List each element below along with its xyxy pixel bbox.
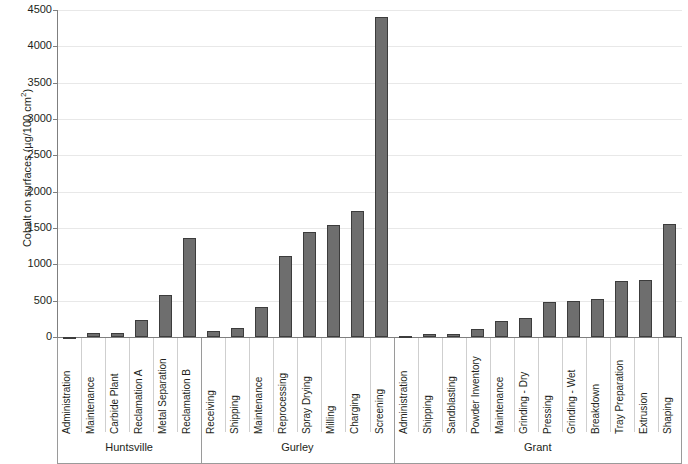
y-axis-tick-label: 0 (18, 331, 52, 342)
category-separator (634, 338, 635, 432)
y-axis-tick-mark (53, 10, 57, 11)
bar[interactable] (639, 280, 652, 337)
category-label: Maintenance (493, 334, 507, 434)
category-separator (273, 338, 274, 432)
bar[interactable] (351, 211, 364, 337)
category-separator (514, 338, 515, 432)
category-label: Screening (373, 334, 387, 434)
category-label: Extrusion (637, 334, 651, 434)
bar-chart: Cobalt on surfaces (µg/100 cm2) 05001000… (0, 0, 688, 464)
category-label: Carbide Plant (108, 334, 122, 434)
gridline (58, 46, 682, 47)
category-separator (345, 338, 346, 432)
category-label: Sandblasting (445, 334, 459, 434)
y-axis-tick-label: 500 (18, 295, 52, 306)
y-axis-tick-label: 2500 (18, 149, 52, 160)
category-label: Metal Separation (156, 334, 170, 434)
group-label: Gurley (201, 439, 393, 455)
y-axis-tick-label: 1000 (18, 258, 52, 269)
category-separator (370, 338, 371, 432)
category-separator (129, 338, 130, 432)
gridline (58, 264, 682, 265)
category-separator (562, 338, 563, 432)
bar[interactable] (303, 232, 316, 337)
bar[interactable] (663, 224, 676, 337)
bar[interactable] (159, 295, 172, 337)
category-separator (153, 338, 154, 432)
bar[interactable] (615, 281, 628, 337)
category-label: Charging (348, 334, 362, 434)
category-label: Powder Inventory (469, 334, 483, 434)
y-axis-tick-label: 2000 (18, 186, 52, 197)
category-label: Milling (324, 334, 338, 434)
gridline (58, 192, 682, 193)
category-separator (466, 338, 467, 432)
category-label: Administration (60, 334, 74, 434)
y-axis-tick-label: 3000 (18, 113, 52, 124)
y-axis-tick-mark (53, 192, 57, 193)
category-separator (105, 338, 106, 432)
gridline (58, 10, 682, 11)
gridline (58, 155, 682, 156)
bar[interactable] (255, 307, 268, 337)
category-label: Reprocessing (276, 334, 290, 434)
category-label: Pressing (541, 334, 555, 434)
bar[interactable] (543, 302, 556, 337)
category-label: Grinding - Dry (517, 334, 531, 434)
category-label: Shipping (228, 334, 242, 434)
category-label: Receiving (204, 334, 218, 434)
gridline (58, 119, 682, 120)
group-label: Huntsville (57, 439, 201, 455)
bar[interactable] (591, 299, 604, 337)
category-separator (442, 338, 443, 432)
category-label: Maintenance (252, 334, 266, 434)
gridline (58, 301, 682, 302)
y-axis-tick-mark (53, 155, 57, 156)
category-label: Reclamation B (180, 334, 194, 434)
category-label: Administration (397, 334, 411, 434)
bar[interactable] (327, 225, 340, 337)
bar[interactable] (567, 301, 580, 337)
y-axis-tick-mark (53, 228, 57, 229)
gridline (58, 83, 682, 84)
x-axis-categories: AdministrationMaintenanceCarbide PlantRe… (57, 338, 682, 464)
y-axis-tick-label: 3500 (18, 77, 52, 88)
category-label: Shaping (661, 334, 675, 434)
category-separator (297, 338, 298, 432)
category-label: Maintenance (84, 334, 98, 434)
category-separator (586, 338, 587, 432)
y-axis-tick-mark (53, 46, 57, 47)
category-label: Shipping (421, 334, 435, 434)
category-label: Reclamation A (132, 334, 146, 434)
y-axis-tick-mark (53, 83, 57, 84)
category-separator (225, 338, 226, 432)
category-separator (418, 338, 419, 432)
category-label: Spray Drying (300, 334, 314, 434)
category-separator (321, 338, 322, 432)
y-axis-line (57, 10, 58, 337)
category-label: Breakdown (589, 334, 603, 434)
bar[interactable] (375, 17, 388, 337)
bar[interactable] (279, 256, 292, 337)
category-separator (610, 338, 611, 432)
category-separator (81, 338, 82, 432)
y-axis-tick-mark (53, 119, 57, 120)
category-separator (177, 338, 178, 432)
gridline (58, 228, 682, 229)
category-separator (538, 338, 539, 432)
y-axis-tick-label: 1500 (18, 222, 52, 233)
y-axis-tick-labels: 050010001500200025003000350040004500 (0, 0, 52, 464)
y-axis-tick-label: 4000 (18, 40, 52, 51)
category-separator (249, 338, 250, 432)
bar[interactable] (183, 238, 196, 337)
category-label: Tray Preparation (613, 334, 627, 434)
y-axis-tick-mark (53, 264, 57, 265)
y-axis-tick-mark (53, 301, 57, 302)
y-axis-tick-label: 4500 (18, 4, 52, 15)
category-label: Grinding - Wet (565, 334, 579, 434)
group-label: Grant (394, 439, 682, 455)
plot-area (57, 10, 682, 337)
category-separator (658, 338, 659, 432)
category-separator (490, 338, 491, 432)
